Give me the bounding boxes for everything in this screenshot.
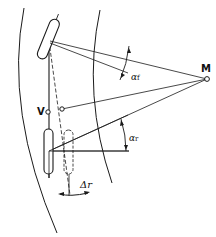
rear-point-v	[46, 110, 50, 114]
road-inner-edge	[93, 10, 112, 183]
diagram-canvas	[0, 0, 216, 237]
offset-arrow	[60, 193, 88, 195]
rear-wheel	[44, 129, 53, 174]
label-alpha-f: αf	[131, 67, 140, 83]
label-v: V	[37, 107, 45, 117]
label-delta-r: Δr	[80, 180, 92, 190]
label-alpha-r: αr	[129, 128, 138, 144]
center-point-m	[205, 77, 210, 82]
front-line-2	[50, 43, 128, 73]
rear-wheel-offset	[64, 130, 73, 174]
secondary-point	[60, 107, 64, 111]
label-m: M	[201, 64, 211, 74]
secondary-line	[62, 79, 207, 109]
